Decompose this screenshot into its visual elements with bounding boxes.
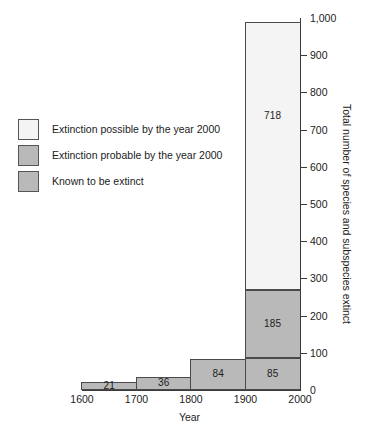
bar-value-label: 84 bbox=[212, 369, 224, 379]
y-axis-tick bbox=[300, 130, 307, 131]
y-axis-tick-label: 400 bbox=[310, 236, 328, 247]
y-axis-tick bbox=[300, 92, 307, 93]
y-axis-tick bbox=[300, 204, 307, 205]
legend-item: Extinction possible by the year 2000 bbox=[18, 116, 222, 142]
x-axis-tick-label: 1700 bbox=[125, 394, 148, 405]
plot-area: 21368485185718 bbox=[82, 18, 300, 390]
extinction-stacked-bar-chart: 21368485185718 0100200300400500600700800… bbox=[0, 0, 379, 438]
bar-segment: 84 bbox=[190, 359, 247, 390]
bar-1600-1700: 21 bbox=[82, 382, 137, 390]
y-axis-tick-label: 100 bbox=[310, 348, 328, 359]
y-axis-tick-label: 700 bbox=[310, 124, 328, 135]
legend-item: Known to be extinct bbox=[18, 168, 222, 194]
y-axis-tick-label: 300 bbox=[310, 273, 328, 284]
y-axis-tick bbox=[300, 167, 307, 168]
legend-swatch bbox=[18, 119, 39, 140]
y-axis-tick bbox=[300, 278, 307, 279]
x-axis-title: Year bbox=[0, 412, 379, 423]
y-axis-tick bbox=[300, 353, 307, 354]
y-axis-tick bbox=[300, 55, 307, 56]
y-axis-tick-label: 900 bbox=[310, 50, 328, 61]
x-axis-tick-label: 1600 bbox=[70, 394, 93, 405]
x-axis-tick-label: 1900 bbox=[234, 394, 257, 405]
bar-1900-2000: 85185718 bbox=[246, 22, 301, 390]
x-axis-tick-label: 1800 bbox=[179, 394, 202, 405]
y-axis-tick-label: 600 bbox=[310, 162, 328, 173]
y-axis-tick-label: 800 bbox=[310, 87, 328, 98]
bar-value-label: 185 bbox=[264, 319, 281, 329]
x-axis-tick-label: 2000 bbox=[288, 394, 311, 405]
legend-swatch bbox=[18, 171, 39, 192]
bar-segment: 185 bbox=[245, 290, 302, 359]
legend-swatch bbox=[18, 145, 39, 166]
legend-label: Extinction possible by the year 2000 bbox=[52, 124, 220, 135]
bar-value-label: 85 bbox=[267, 369, 279, 379]
legend: Extinction possible by the year 2000Exti… bbox=[18, 116, 222, 194]
bar-segment: 718 bbox=[245, 22, 302, 289]
y-axis-title: Total number of species and subspecies e… bbox=[342, 104, 353, 330]
y-axis-tick-label: 200 bbox=[310, 310, 328, 321]
y-axis-tick-label: 500 bbox=[310, 199, 328, 210]
legend-item: Extinction probable by the year 2000 bbox=[18, 142, 222, 168]
y-axis-tick bbox=[300, 241, 307, 242]
bar-1800-1900: 84 bbox=[191, 359, 246, 390]
bar-segment: 21 bbox=[81, 382, 138, 390]
legend-label: Extinction probable by the year 2000 bbox=[52, 150, 222, 161]
legend-label: Known to be extinct bbox=[52, 176, 144, 187]
y-axis-tick-label: 1,000 bbox=[310, 13, 336, 24]
x-axis-line bbox=[82, 390, 301, 391]
bar-segment: 36 bbox=[136, 377, 193, 390]
y-axis-tick bbox=[300, 316, 307, 317]
bar-value-label: 718 bbox=[264, 111, 281, 121]
bar-value-label: 36 bbox=[158, 378, 170, 388]
bar-1700-1800: 36 bbox=[137, 377, 192, 390]
bar-segment: 85 bbox=[245, 358, 302, 390]
